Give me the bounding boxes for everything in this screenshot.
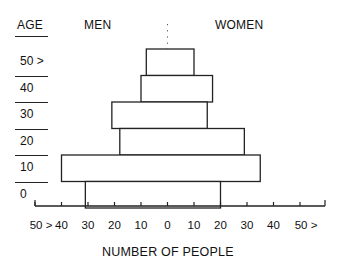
pyramid-bar bbox=[62, 155, 261, 182]
age-header-underline bbox=[15, 36, 48, 37]
x-tick-label: 10 bbox=[135, 218, 148, 232]
age-separator bbox=[15, 155, 48, 156]
age-separator bbox=[15, 182, 48, 183]
x-axis-title: NUMBER OF PEOPLE bbox=[102, 245, 234, 259]
x-tick-label: 30 bbox=[82, 218, 95, 232]
pyramid-bar bbox=[141, 76, 213, 103]
age-label: 30 bbox=[20, 107, 33, 121]
age-axis-title: AGE bbox=[17, 18, 43, 32]
men-header: MEN bbox=[84, 18, 111, 32]
x-tick-label: 40 bbox=[267, 218, 280, 232]
x-tick-label: 0 bbox=[164, 218, 170, 232]
x-tick-label: 50 > bbox=[295, 218, 318, 232]
age-label: 20 bbox=[20, 134, 33, 148]
pyramid-bar bbox=[146, 49, 194, 76]
women-header: WOMEN bbox=[215, 18, 263, 32]
age-separator bbox=[15, 129, 48, 130]
x-tick-label: 20 bbox=[214, 218, 227, 232]
x-tick-label: 10 bbox=[188, 218, 201, 232]
age-label: 10 bbox=[20, 160, 33, 174]
x-tick-label: 50 > bbox=[30, 218, 53, 232]
x-tick-label: 30 bbox=[241, 218, 254, 232]
age-label: 40 bbox=[20, 81, 33, 95]
x-tick-label: 40 bbox=[55, 218, 68, 232]
age-label: 0 bbox=[20, 187, 27, 201]
pyramid-bar bbox=[85, 182, 220, 209]
age-label: 50 > bbox=[20, 54, 44, 68]
pyramid-bar bbox=[120, 129, 245, 156]
age-separator bbox=[15, 76, 48, 77]
population-pyramid-chart: AGE MEN WOMEN 50 >403020100 50 >40302010… bbox=[0, 0, 340, 271]
x-tick-label: 20 bbox=[108, 218, 121, 232]
pyramid-bar bbox=[112, 102, 207, 129]
age-separator bbox=[15, 102, 48, 103]
